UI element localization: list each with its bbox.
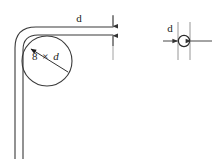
- bend-radius-number: 8: [32, 50, 38, 62]
- bend-radius-symbol: d: [53, 50, 59, 62]
- bent-wire-outline-group: [15, 27, 113, 159]
- bend-radius-times: ×: [42, 50, 48, 62]
- wire-thickness-label: d: [76, 12, 82, 24]
- wire-cross-section-circle: [178, 35, 189, 46]
- wire-outer-edge: [15, 27, 113, 159]
- section-diameter-label: d: [167, 22, 173, 34]
- bend-radius-label: 8 × d: [32, 50, 59, 62]
- cross-section-view-group: d: [163, 22, 212, 60]
- diagram-canvas: 8 × d d: [0, 0, 221, 159]
- wire-thickness-dimension-group: d: [76, 12, 113, 60]
- wire-bend-diagram: 8 × d d: [0, 0, 221, 159]
